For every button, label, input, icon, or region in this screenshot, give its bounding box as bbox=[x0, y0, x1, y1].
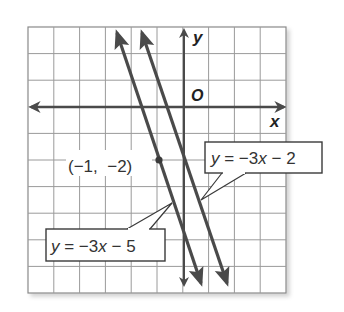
eq-label-neg3x-minus5: y = −3x − 5 bbox=[50, 237, 136, 256]
origin-label: O bbox=[191, 87, 204, 104]
eq-label-neg3x-minus2: y = −3x − 2 bbox=[210, 149, 296, 168]
x-axis-label: x bbox=[269, 112, 281, 131]
coordinate-graph: y x O (−1, −2) y = −3x − 2 y = −3x − 5 bbox=[0, 0, 344, 312]
y-axis-label: y bbox=[192, 28, 204, 47]
point-neg1-neg2 bbox=[155, 156, 162, 163]
point-label: (−1, −2) bbox=[68, 157, 132, 176]
